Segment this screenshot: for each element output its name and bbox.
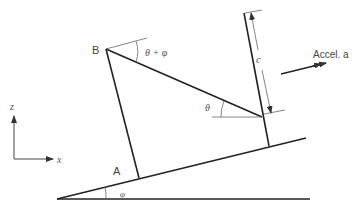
label-point-a: A — [113, 165, 121, 177]
rod-ab — [106, 49, 139, 178]
phi-angle-arc — [105, 187, 106, 199]
label-dimension-c: c — [256, 53, 261, 65]
theta-angle-arc — [221, 101, 224, 117]
dimension-c-ext-top — [245, 10, 262, 13]
incline-line — [57, 138, 306, 199]
dimension-c-line-lower — [262, 70, 271, 113]
rod-diagonal — [106, 49, 262, 117]
label-point-b: B — [92, 44, 99, 56]
label-axis-x: x — [56, 154, 62, 165]
label-angle-theta: θ — [205, 102, 210, 113]
label-angle-theta-phi: θ + φ — [145, 47, 168, 58]
dimension-c-ext-bottom — [264, 110, 285, 114]
accel-arrow-second-head — [313, 64, 321, 66]
label-accel: Accel. a — [313, 49, 349, 60]
dimension-c-line-upper — [251, 13, 258, 50]
incline-diagram: B A θ + φ θ φ c Accel. a z x — [0, 0, 362, 206]
rod-tall — [244, 13, 269, 146]
theta-phi-angle-arc — [136, 41, 138, 62]
reference-line-b — [106, 38, 147, 49]
label-angle-phi: φ — [120, 189, 125, 199]
label-axis-z: z — [9, 101, 14, 112]
